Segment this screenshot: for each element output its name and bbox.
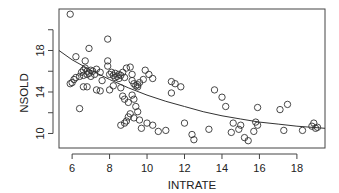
- data-point: [118, 122, 124, 128]
- data-point: [118, 85, 124, 91]
- data-point: [281, 127, 287, 133]
- x-tick-label: 8: [107, 162, 113, 174]
- x-axis-title: INTRATE: [168, 179, 217, 191]
- data-point: [299, 127, 305, 133]
- y-axis-title: NSOLD: [18, 73, 30, 113]
- y-axis: 101418: [34, 30, 53, 140]
- data-point: [131, 96, 137, 102]
- data-point: [138, 125, 144, 131]
- data-point: [168, 78, 174, 84]
- y-tick-label: 10: [34, 127, 46, 139]
- data-point: [168, 90, 174, 96]
- data-point: [97, 88, 103, 94]
- data-point: [150, 75, 156, 81]
- data-point: [146, 71, 152, 77]
- data-point: [76, 105, 82, 111]
- x-axis: 681012141618: [69, 154, 303, 174]
- data-point: [110, 83, 116, 89]
- data-point: [67, 11, 73, 17]
- data-point: [238, 122, 244, 128]
- data-point: [129, 92, 135, 98]
- data-point: [163, 127, 169, 133]
- x-tick-label: 16: [253, 162, 265, 174]
- data-point: [82, 58, 88, 64]
- x-tick-label: 14: [216, 162, 228, 174]
- data-point: [105, 36, 111, 42]
- data-point: [127, 64, 133, 70]
- data-point: [254, 104, 260, 110]
- data-point: [284, 101, 290, 107]
- data-point: [84, 84, 90, 90]
- x-tick-label: 6: [69, 162, 75, 174]
- data-point: [178, 84, 184, 90]
- y-tick-label: 18: [34, 44, 46, 56]
- fitted-curve: [59, 51, 325, 129]
- x-tick-label: 18: [291, 162, 303, 174]
- data-point: [211, 87, 217, 93]
- data-point: [106, 87, 112, 93]
- x-tick-label: 12: [178, 162, 190, 174]
- y-tick-label: 14: [34, 86, 46, 98]
- data-point: [73, 54, 79, 60]
- data-point: [219, 94, 225, 100]
- data-point: [80, 84, 86, 90]
- scatter-chart: 681012141618 101418 INTRATE NSOLD: [0, 0, 339, 193]
- data-point: [181, 120, 187, 126]
- data-point: [206, 126, 212, 132]
- data-point: [129, 71, 135, 77]
- data-point: [223, 103, 229, 109]
- data-point: [155, 128, 161, 134]
- data-point: [230, 120, 236, 126]
- data-point: [277, 106, 283, 112]
- data-point: [136, 117, 142, 123]
- data-point: [228, 129, 234, 135]
- x-tick-label: 10: [141, 162, 153, 174]
- data-point: [99, 77, 105, 83]
- data-point: [150, 122, 156, 128]
- data-point: [86, 45, 92, 51]
- data-point: [142, 67, 148, 73]
- data-point: [251, 128, 257, 134]
- data-point: [236, 126, 242, 132]
